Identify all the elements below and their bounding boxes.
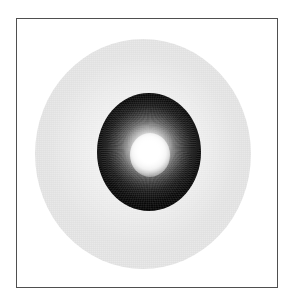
plot-canvas [17, 19, 277, 287]
figure-frame [16, 18, 278, 288]
figure-root [0, 0, 293, 305]
bright-core-highlight [130, 133, 170, 177]
